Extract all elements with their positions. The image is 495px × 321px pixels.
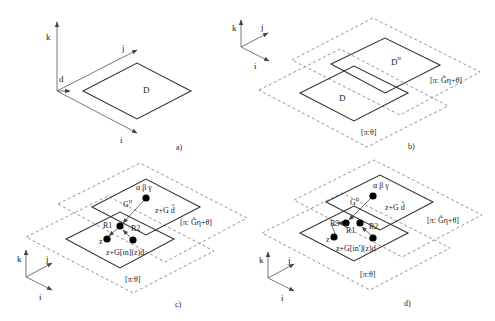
- plane-transformed: [292, 18, 480, 115]
- plane-original-label: [π:θ]: [360, 270, 376, 279]
- panel-c-caption: c): [175, 300, 182, 309]
- r1-label: R1: [103, 221, 112, 230]
- k-axis-label: k: [259, 255, 264, 265]
- i-axis-label: i: [39, 292, 42, 302]
- point-z: [103, 235, 110, 242]
- point-r2: [129, 236, 136, 243]
- z-label: z: [99, 237, 103, 246]
- j-axis-label: j: [287, 255, 291, 265]
- domain-d: [300, 66, 408, 121]
- panel-d-caption: d): [404, 299, 411, 308]
- domain-d: [83, 63, 191, 119]
- abg-label: α β γ: [136, 183, 152, 192]
- plane-transformed: [58, 163, 247, 262]
- r2-label: R2: [369, 222, 378, 231]
- panel-a-caption: a): [176, 143, 183, 152]
- domain-dtr-label: Dtr: [391, 55, 401, 67]
- k-axis-label: k: [46, 32, 51, 42]
- k-axis-label: k: [17, 254, 22, 264]
- panel-b-caption: b): [408, 142, 415, 151]
- gtr-label: Gtr: [350, 196, 359, 207]
- j-axis-arrow: [241, 33, 268, 47]
- point-z: [330, 233, 337, 240]
- axes-c: k j i: [17, 250, 52, 302]
- r2-label: R2: [131, 224, 140, 233]
- axes-d: k j i: [259, 252, 294, 303]
- j-axis-label: j: [121, 43, 125, 53]
- plane-transformed-label: [π: Ĝη+θ]: [427, 215, 459, 225]
- figure-canvas: k j i d D a) k j i Dtr D [π: Ĝη+θ] [π:θ]…: [0, 0, 495, 321]
- j-axis-label: j: [45, 254, 49, 264]
- i-axis-arrow: [57, 91, 137, 133]
- upper-expr-label: z+G d̂: [155, 204, 175, 215]
- i-axis-arrow: [241, 47, 269, 61]
- abg-label: α β γ: [373, 181, 389, 190]
- plane-original: [259, 49, 448, 147]
- upper-expr-label: z+G d̂: [385, 201, 405, 212]
- i-axis-label: i: [254, 61, 257, 71]
- j-axis-arrow: [268, 264, 294, 278]
- lower-expr-label: z+G[in](z)d: [106, 248, 144, 257]
- point-center: [116, 222, 123, 229]
- plane-original-label: [π:θ]: [125, 275, 141, 284]
- plane-transformed-label: [π: Ĝη+θ]: [430, 75, 462, 85]
- z-label: z: [326, 235, 330, 244]
- j-axis-arrow: [57, 50, 137, 91]
- i-axis-arrow: [26, 277, 52, 290]
- r1-label: R1: [346, 226, 355, 235]
- d-vector-label: d: [59, 74, 64, 84]
- i-axis-label: i: [281, 293, 284, 303]
- point-alpha-beta-gamma: [369, 192, 376, 199]
- panel-b: k j i Dtr D [π: Ĝη+θ] [π:θ] b): [232, 18, 480, 151]
- point-center: [356, 219, 363, 226]
- j-axis-label: j: [260, 22, 264, 32]
- axes-b: k j i: [232, 20, 269, 71]
- i-axis-arrow: [268, 278, 294, 291]
- domain-dtr: [331, 38, 440, 93]
- panel-d: k j i α β γ Gtr z+G d̂ R3 R1 R2 z z+G[in…: [259, 160, 482, 308]
- lower-expr-label: z+G[in'](z)d: [336, 244, 376, 253]
- gtr-label: Gtr: [123, 198, 132, 209]
- plane-original-label: [π:θ]: [361, 128, 377, 137]
- k-axis-label: k: [232, 23, 237, 33]
- i-axis-label: i: [120, 135, 123, 145]
- panel-c: k j i α β γ Gtr z+G d̂ R1 R2 z z+G[in](z…: [17, 163, 247, 309]
- panel-a: k j i d D a): [46, 22, 191, 152]
- j-axis-arrow: [26, 263, 52, 277]
- point-alpha-beta-gamma: [142, 194, 149, 201]
- domain-d-label: D: [143, 85, 150, 95]
- point-r2: [369, 234, 376, 241]
- plane-transformed-label: [π: Ĝη+θ]: [180, 217, 212, 227]
- plane-original: [26, 196, 214, 293]
- axes-a: k j i d: [46, 22, 137, 145]
- domain-d: [66, 212, 174, 268]
- r3-label: R3: [330, 219, 339, 228]
- domain-d-label: D: [339, 93, 346, 103]
